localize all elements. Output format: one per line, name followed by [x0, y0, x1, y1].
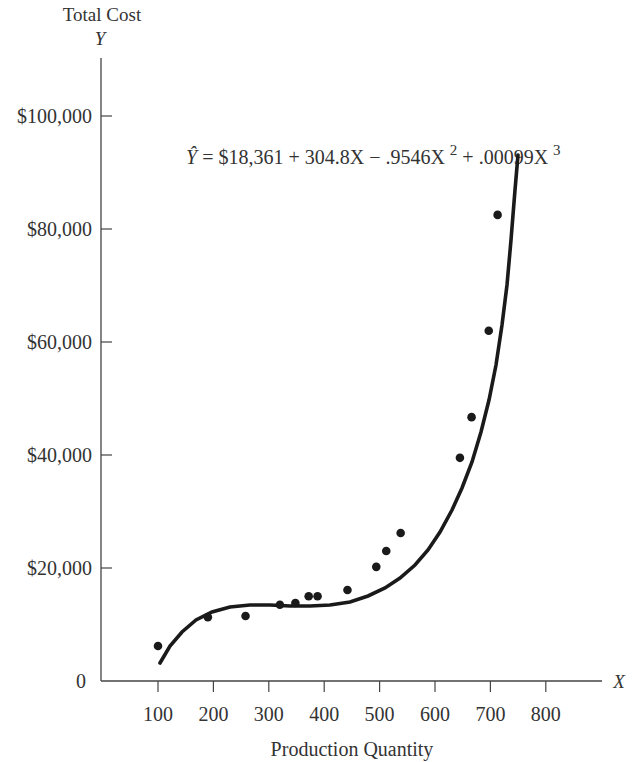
x-axis-title: Production Quantity — [271, 738, 434, 761]
data-point — [304, 592, 313, 601]
x-tick-label: 800 — [531, 703, 561, 725]
data-point — [154, 642, 163, 651]
regression-equation: Ŷ = $18,361 + 304.8X − .9546X 2 + .00099… — [186, 137, 561, 168]
y-tick-label: $80,000 — [27, 218, 92, 240]
y-tick-label: $100,000 — [17, 105, 92, 127]
data-point — [484, 326, 493, 335]
y-axis-symbol: Y — [95, 28, 108, 49]
equation-exponent-2: 2 — [450, 142, 458, 158]
data-point — [241, 612, 250, 621]
x-tick-label: 300 — [254, 703, 284, 725]
y-tick-label: $60,000 — [27, 331, 92, 353]
fit-curve — [160, 155, 518, 663]
y-axis-title: Total Cost — [63, 4, 142, 25]
equation-cubic-term: + .00099X — [462, 146, 548, 168]
y-tick-label: $40,000 — [27, 444, 92, 466]
equation-exponent-3: 3 — [553, 142, 561, 158]
x-tick-label: 700 — [475, 703, 505, 725]
y-tick-label: $20,000 — [27, 557, 92, 579]
data-point — [396, 529, 405, 538]
data-point — [204, 613, 213, 622]
data-points — [154, 211, 502, 651]
data-point — [313, 592, 322, 601]
data-point — [343, 586, 352, 595]
data-point — [456, 454, 465, 463]
x-tick-label: 500 — [365, 703, 395, 725]
x-tick-label: 200 — [198, 703, 228, 725]
data-point — [382, 547, 391, 556]
data-point — [291, 599, 300, 608]
y-tick-label: 0 — [76, 670, 86, 692]
x-tick-label: 100 — [143, 703, 173, 725]
x-axis-symbol: X — [612, 671, 626, 692]
x-ticks: 100200300400500600700800 — [143, 681, 561, 725]
x-tick-label: 600 — [420, 703, 450, 725]
chart: 0$20,000$40,000$60,000$80,000$100,000 10… — [0, 0, 643, 762]
y-ticks: 0$20,000$40,000$60,000$80,000$100,000 — [17, 105, 112, 692]
x-tick-label: 400 — [309, 703, 339, 725]
data-point — [493, 211, 502, 220]
data-point — [467, 413, 476, 422]
data-point — [372, 563, 381, 572]
equation-body: = $18,361 + 304.8X − .9546X — [202, 146, 445, 168]
data-point — [276, 600, 285, 609]
svg-text:Ŷ = $18,361 + 304.8X −: Ŷ = $18,361 + 304.8X − .9546X 2 + .00099… — [186, 137, 561, 168]
y-hat-symbol: Ŷ — [186, 146, 199, 168]
